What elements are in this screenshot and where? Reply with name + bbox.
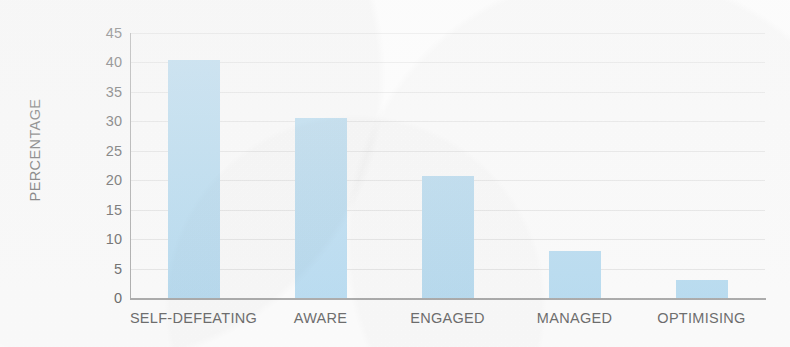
- bar-managed[interactable]: [549, 251, 601, 298]
- x-tick-label: ENGAGED: [410, 310, 485, 326]
- bar-slot: [638, 33, 765, 298]
- y-axis-title-text: PERCENTAGE: [27, 99, 43, 202]
- x-tick-label: AWARE: [294, 310, 348, 326]
- y-tick-label: 30: [78, 113, 122, 129]
- bar-slot: [257, 33, 384, 298]
- bar-chart-figure: PERCENTAGE 454035302520151050 SELF-DEFEA…: [0, 0, 790, 347]
- y-tick-label: 45: [78, 25, 122, 41]
- bar-optimising[interactable]: [676, 280, 728, 298]
- y-axis-tick-labels: 454035302520151050: [72, 33, 122, 298]
- bar-slot: [384, 33, 511, 298]
- bar-self-defeating[interactable]: [168, 60, 220, 299]
- y-tick-label: 15: [78, 202, 122, 218]
- y-tick-label: 35: [78, 84, 122, 100]
- bar-engaged[interactable]: [422, 176, 474, 298]
- x-axis-line: [130, 298, 766, 300]
- bar-slot: [130, 33, 257, 298]
- bars-layer: [130, 33, 765, 298]
- y-tick-label: 25: [78, 143, 122, 159]
- y-tick-label: 0: [78, 290, 122, 306]
- x-tick-label: SELF-DEFEATING: [130, 310, 257, 326]
- y-tick-label: 20: [78, 172, 122, 188]
- x-tick-label: MANAGED: [537, 310, 612, 326]
- y-tick-label: 5: [78, 261, 122, 277]
- x-tick-label: OPTIMISING: [657, 310, 745, 326]
- y-axis-title: PERCENTAGE: [0, 0, 70, 300]
- bar-slot: [511, 33, 638, 298]
- bar-aware[interactable]: [295, 118, 347, 298]
- x-axis-tick-labels: SELF-DEFEATINGAWAREENGAGEDMANAGEDOPTIMIS…: [130, 310, 765, 340]
- y-tick-label: 10: [78, 231, 122, 247]
- y-tick-label: 40: [78, 54, 122, 70]
